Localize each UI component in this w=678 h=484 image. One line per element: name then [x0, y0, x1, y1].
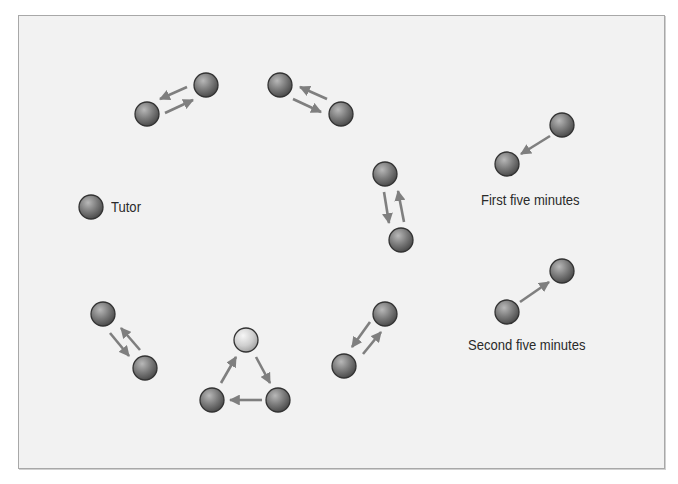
student-ball-icon: [133, 356, 157, 380]
tutor-ball-icon: [234, 328, 258, 352]
student-ball-icon: [373, 162, 397, 186]
first-five-ball-icon: [550, 113, 574, 137]
first-five-ball-icon: [495, 152, 519, 176]
tutor-legend-label: Tutor: [111, 199, 141, 215]
balls-layer: [79, 73, 574, 412]
interaction-arrow-icon: [300, 87, 327, 99]
interaction-arrow-icon: [363, 332, 381, 354]
interaction-arrow-icon: [398, 191, 404, 222]
first-five-arrow-icon: [521, 136, 550, 154]
tutor-legend-ball-icon: [79, 195, 103, 219]
student-ball-icon: [329, 102, 353, 126]
second-five-minutes-label: Second five minutes: [468, 337, 586, 353]
interaction-arrow-icon: [384, 192, 389, 223]
second-five-ball-icon: [495, 300, 519, 324]
second-five-arrow-icon: [520, 282, 549, 302]
arrows-layer: [110, 87, 550, 400]
student-ball-icon: [332, 354, 356, 378]
interaction-arrow-icon: [165, 100, 193, 113]
interaction-arrow-icon: [121, 328, 140, 350]
first-five-minutes-label: First five minutes: [481, 192, 580, 208]
student-ball-icon: [389, 228, 413, 252]
interaction-arrow-icon: [221, 357, 236, 383]
interaction-arrow-icon: [160, 87, 187, 99]
second-five-ball-icon: [550, 259, 574, 283]
interaction-arrow-icon: [256, 357, 270, 383]
student-ball-icon: [268, 73, 292, 97]
interaction-arrow-icon: [352, 322, 370, 347]
student-ball-icon: [266, 388, 290, 412]
student-ball-icon: [135, 102, 159, 126]
student-ball-icon: [91, 302, 115, 326]
student-ball-icon: [194, 73, 218, 97]
student-ball-icon: [200, 388, 224, 412]
student-ball-icon: [373, 302, 397, 326]
interaction-arrow-icon: [293, 99, 321, 112]
interaction-arrow-icon: [110, 333, 129, 356]
diagram-canvas: [0, 0, 678, 484]
